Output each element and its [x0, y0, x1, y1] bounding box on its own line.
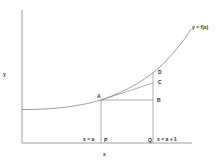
point-label-b: B — [157, 97, 161, 103]
point-label-c: C — [158, 79, 162, 85]
x-marker-right: x = a + 1 — [157, 136, 177, 142]
y-axis-label: y — [3, 71, 6, 77]
x-marker-left: x = a — [83, 136, 94, 142]
x-axis-label: x — [103, 151, 106, 157]
curve-f — [22, 29, 191, 110]
point-label-a: A — [97, 93, 101, 99]
point-label-q: Q — [148, 137, 152, 143]
curve-label: y = f(x) — [192, 24, 209, 30]
tangent-diagram: y = f(x) D C A B P Q x = a x = a + 1 y x — [0, 0, 221, 162]
point-label-d: D — [158, 69, 162, 75]
tangent-line-ac — [101, 83, 153, 100]
point-label-p: P — [104, 137, 108, 143]
